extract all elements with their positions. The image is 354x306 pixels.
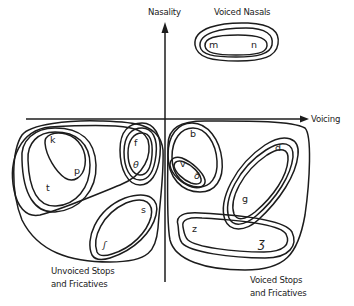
phoneme-s: s — [141, 205, 146, 215]
voicing-arrow-icon — [300, 116, 309, 123]
voiced-stops-label-line2: and Fricatives — [250, 287, 307, 299]
phoneme-b: b — [190, 129, 196, 139]
phoneme-v: v — [180, 159, 186, 169]
phoneme-f: f — [134, 138, 137, 148]
unvoiced-cluster — [13, 121, 164, 262]
phoneme-m: m — [209, 40, 218, 50]
phoneme-theta: θ — [133, 160, 139, 170]
nasality-axis-label: Nasality — [148, 6, 181, 18]
phoneme-n: n — [251, 40, 257, 50]
phoneme-k: k — [50, 135, 56, 145]
phoneme-t: t — [46, 183, 50, 193]
voiced-nasals-cluster — [195, 23, 278, 61]
phoneme-clustering-diagram — [0, 0, 354, 306]
unvoiced-stops-label-line1: Unvoiced Stops — [51, 265, 115, 277]
voicing-axis-label: Voicing — [311, 113, 340, 125]
phoneme-z: z — [192, 224, 197, 234]
unvoiced-stops-label-line2: and Fricatives — [51, 278, 108, 290]
phoneme-p: p — [74, 166, 80, 176]
phoneme-ezh: ʒ — [258, 238, 265, 248]
nasality-arrow-icon — [162, 22, 169, 33]
phoneme-esh: ʃ — [103, 240, 106, 250]
voiced-nasals-label: Voiced Nasals — [214, 6, 270, 18]
phoneme-eth: ð — [194, 171, 200, 181]
phoneme-d: d — [275, 143, 281, 153]
phoneme-g: g — [242, 194, 248, 204]
voiced-stops-label-line1: Voiced Stops — [250, 274, 302, 286]
voiced-cluster — [168, 121, 310, 270]
